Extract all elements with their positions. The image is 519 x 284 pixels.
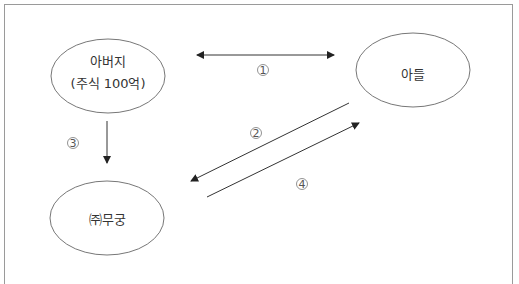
node-son: 아들 xyxy=(356,33,470,107)
edge-2-son-company: 2 xyxy=(191,103,349,181)
edge-4-company-son: 4 xyxy=(207,123,359,197)
step-1-label: 1 xyxy=(260,64,267,77)
step-2-label: 2 xyxy=(253,127,260,140)
step-4-label: 4 xyxy=(299,178,306,191)
node-company-name: ㈜무궁 xyxy=(89,212,126,227)
edge-1-father-son: 1 xyxy=(197,55,334,77)
node-father-name: 아버지 xyxy=(90,54,126,69)
node-father-detail: (주식 100억) xyxy=(70,76,145,91)
node-father: 아버지 (주식 100억) xyxy=(51,39,165,113)
edge-3-father-company: 3 xyxy=(68,121,108,163)
node-company: ㈜무궁 xyxy=(50,181,164,255)
node-son-name: 아들 xyxy=(401,67,425,82)
step-3-label: 3 xyxy=(70,137,77,150)
